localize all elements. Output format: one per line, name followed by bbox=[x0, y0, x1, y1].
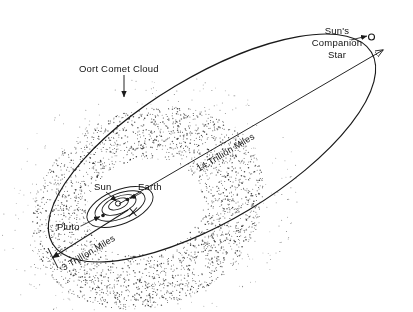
label-companion-star-line2: Companion bbox=[303, 37, 371, 48]
label-sun: Sun bbox=[94, 181, 112, 192]
inner-distance-end-bar bbox=[48, 248, 58, 268]
label-oort-comet-cloud: Oort Comet Cloud bbox=[79, 63, 159, 74]
label-pluto: Pluto bbox=[57, 221, 80, 232]
diagram-canvas: Oort Comet Cloud Sun's Companion Star Su… bbox=[0, 0, 413, 312]
label-companion-star-line3: Star bbox=[311, 49, 363, 60]
label-companion-star-line1: Sun's bbox=[311, 25, 363, 36]
label-earth: Earth bbox=[138, 181, 162, 192]
pluto-marker bbox=[101, 214, 105, 218]
oort-cloud-outer-scatter bbox=[2, 78, 298, 310]
